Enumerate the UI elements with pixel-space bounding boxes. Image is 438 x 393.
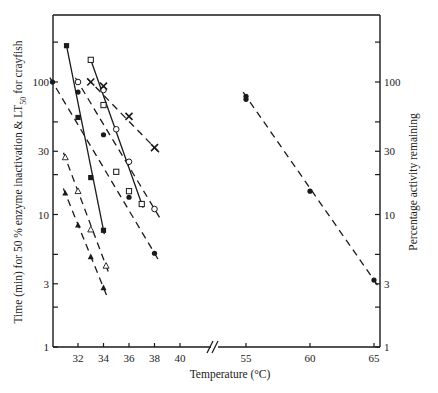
y-tick-label-right: 100 <box>384 76 401 88</box>
y-tick-label-right: 10 <box>384 209 396 221</box>
y-axis-title-left: Time (min) for 50 % enzyme inactivation … <box>12 40 28 323</box>
filled-square-marker <box>75 115 80 120</box>
y-tick-label-right: 30 <box>384 145 396 157</box>
filled-triangle-marker <box>62 190 68 196</box>
y-tick-label-right: 1 <box>384 341 390 353</box>
filled-circle-marker <box>243 97 248 102</box>
filled-circle-marker <box>101 132 106 137</box>
filled-circle-marker <box>50 79 55 84</box>
y-tick-label-left: 100 <box>33 76 50 88</box>
x-tick-label: 36 <box>124 352 136 364</box>
filled-circle-marker <box>307 189 312 194</box>
data-series <box>50 43 380 297</box>
plot-frame <box>53 15 380 353</box>
filled-circle-marker <box>152 251 157 256</box>
open-square-marker <box>114 169 119 174</box>
series-line <box>63 153 109 276</box>
filled-square-marker <box>101 228 106 233</box>
filled-square-marker <box>64 43 69 48</box>
filled-circle-marker <box>126 195 131 200</box>
y-tick-label-left: 1 <box>44 341 50 353</box>
y-axis-title-right: Percentage activity remaining <box>407 113 420 251</box>
axis-break-icon <box>212 341 218 353</box>
y-tick-label-left: 30 <box>38 145 50 157</box>
series-7 <box>243 92 380 288</box>
open-square-marker <box>88 57 93 62</box>
filled-triangle-marker <box>75 222 81 228</box>
x-tick-label: 65 <box>369 352 381 364</box>
open-circle-marker <box>75 79 81 85</box>
y-tick-label-left: 10 <box>38 209 50 221</box>
series-line <box>67 46 105 235</box>
filled-circle-marker <box>75 89 80 94</box>
filled-triangle-marker <box>88 254 94 260</box>
open-square-marker <box>101 102 106 107</box>
open-triangle-marker <box>62 154 68 160</box>
series-6 <box>62 188 107 297</box>
open-triangle-marker <box>103 263 109 269</box>
x-tick-label: 60 <box>305 352 317 364</box>
series-line <box>87 78 161 154</box>
chart: 3234363840556065113310103030100100Temper… <box>0 0 438 393</box>
y-tick-label-left: 3 <box>44 278 50 290</box>
y-tick-label-right: 3 <box>384 278 390 290</box>
open-triangle-marker <box>88 226 94 232</box>
series-5 <box>62 153 109 276</box>
series-line <box>75 78 159 218</box>
open-square-marker <box>126 189 131 194</box>
x-tick-label: 38 <box>149 352 161 364</box>
filled-circle-marker <box>371 277 376 282</box>
x-tick-label: 34 <box>98 352 110 364</box>
series-line <box>63 188 107 297</box>
series-4 <box>87 78 161 154</box>
x-tick-label: 40 <box>175 352 187 364</box>
open-square-marker <box>139 201 144 206</box>
x-tick-label: 32 <box>73 352 84 364</box>
x-axis-title: Temperature (°C) <box>190 368 271 381</box>
open-triangle-marker <box>75 188 81 194</box>
series-line <box>91 60 143 208</box>
x-tick-label: 55 <box>241 352 253 364</box>
series-2 <box>75 78 159 218</box>
filled-triangle-marker <box>101 285 107 291</box>
filled-square-marker <box>88 175 93 180</box>
open-circle-marker <box>126 159 132 165</box>
axis-labels: 3234363840556065113310103030100100Temper… <box>12 40 420 381</box>
open-circle-marker <box>113 126 119 132</box>
open-circle-marker <box>152 206 158 212</box>
